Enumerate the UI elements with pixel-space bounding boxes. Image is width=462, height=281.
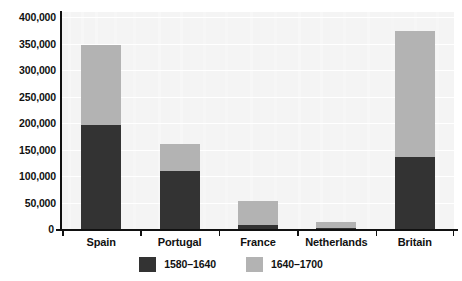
bar-segment-1580-1640[interactable] — [395, 157, 435, 229]
bar-segment-1640-1700[interactable] — [81, 45, 121, 125]
y-tick-label: 400,000 — [0, 12, 56, 22]
x-category-label: Britain — [355, 236, 462, 248]
legend-swatch-icon — [139, 257, 156, 272]
y-axis-tick-labels: 400,000350,000300,000250,000200,000150,0… — [0, 0, 60, 240]
chart-legend: 1580–16401640–1700 — [0, 254, 462, 274]
bar-segment-1640-1700[interactable] — [238, 201, 278, 225]
legend-label: 1640–1700 — [271, 258, 323, 270]
y-tick-label: 300,000 — [0, 65, 56, 75]
y-axis-zero-tick — [56, 229, 61, 231]
y-axis-line — [60, 11, 62, 231]
y-tick-label: 100,000 — [0, 171, 56, 181]
legend-label: 1580–1640 — [164, 258, 216, 270]
bar-group[interactable] — [160, 144, 200, 229]
bar-group[interactable] — [395, 31, 435, 229]
y-tick-label: 350,000 — [0, 39, 56, 49]
bar-chart: 400,000350,000300,000250,000200,000150,0… — [0, 0, 462, 281]
y-tick-label: 50,000 — [0, 198, 56, 208]
bar-group[interactable] — [316, 222, 356, 229]
y-tick-label: 250,000 — [0, 92, 56, 102]
y-tick-label: 200,000 — [0, 118, 56, 128]
bar-segment-1580-1640[interactable] — [160, 171, 200, 229]
bars-layer — [62, 12, 454, 229]
legend-swatch-icon — [246, 257, 263, 272]
y-tick-label: 0 — [0, 224, 54, 234]
legend-item[interactable]: 1640–1700 — [246, 257, 323, 272]
bar-group[interactable] — [81, 45, 121, 229]
bar-segment-1640-1700[interactable] — [160, 144, 200, 171]
y-tick-label: 150,000 — [0, 145, 56, 155]
bar-group[interactable] — [238, 201, 278, 229]
x-axis-line — [58, 229, 458, 231]
legend-item[interactable]: 1580–1640 — [139, 257, 216, 272]
x-axis-category-labels: SpainPortugalFranceNetherlandsBritain — [62, 236, 454, 252]
bar-segment-1580-1640[interactable] — [81, 125, 121, 229]
bar-segment-1640-1700[interactable] — [316, 222, 356, 228]
bar-segment-1640-1700[interactable] — [395, 31, 435, 157]
plot-area — [62, 12, 454, 229]
